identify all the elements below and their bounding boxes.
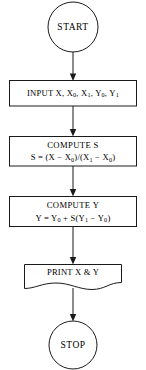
connector-start-to-input bbox=[70, 52, 76, 81]
compute-y-formula-c: − Y bbox=[88, 212, 104, 222]
node-compute-y[interactable]: COMPUTE Y Y = Y0 + S(Y1 − Y0) bbox=[10, 197, 137, 227]
compute-y-formula: Y = Y0 + S(Y1 − Y0) bbox=[36, 212, 111, 223]
flowchart-page: START INPUT X, X0, X1, Y0, Y1 COMPUTE S … bbox=[0, 0, 146, 370]
flowchart-canvas: START INPUT X, X0, X1, Y0, Y1 COMPUTE S … bbox=[0, 0, 146, 370]
compute-y-formula-b: + S(Y bbox=[61, 212, 85, 222]
compute-s-title: COMPUTE S bbox=[47, 140, 99, 150]
input-sub-4: 1 bbox=[116, 92, 119, 99]
node-start[interactable]: START bbox=[48, 2, 98, 52]
compute-s-formula-a: S = (X − X bbox=[31, 152, 72, 162]
input-mid-3: , Y bbox=[105, 87, 116, 97]
compute-y-title: COMPUTE Y bbox=[47, 200, 100, 210]
node-stop[interactable]: STOP bbox=[49, 321, 97, 369]
stop-label: STOP bbox=[60, 340, 85, 350]
input-text-prefix: INPUT X, X bbox=[27, 87, 74, 97]
compute-s-formula-d: ) bbox=[112, 152, 115, 162]
node-input[interactable]: INPUT X, X0, X1, Y0, Y1 bbox=[10, 81, 137, 107]
compute-s-formula-b: )/(X bbox=[74, 152, 90, 162]
connector-compute-s-to-compute-y bbox=[70, 166, 76, 197]
input-label: INPUT X, X0, X1, Y0, Y1 bbox=[27, 87, 119, 98]
input-mid-1: , X bbox=[76, 87, 88, 97]
node-compute-s[interactable]: COMPUTE S S = (X − X0)/(X1 − X0) bbox=[10, 137, 137, 167]
connector-input-to-compute-s bbox=[70, 106, 76, 137]
compute-s-formula-c: − X bbox=[93, 152, 110, 162]
print-label: PRINT X & Y bbox=[47, 267, 99, 277]
compute-y-formula-a: Y = Y bbox=[36, 212, 58, 222]
node-print[interactable]: PRINT X & Y bbox=[25, 265, 122, 290]
compute-y-formula-d: ) bbox=[107, 212, 110, 222]
start-label: START bbox=[57, 22, 88, 32]
connector-print-to-stop bbox=[70, 288, 76, 322]
input-mid-2: , Y bbox=[91, 87, 102, 97]
connector-compute-y-to-print bbox=[70, 227, 76, 265]
